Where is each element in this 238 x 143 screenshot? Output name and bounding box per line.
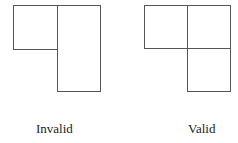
valid-top-left-square <box>144 5 188 49</box>
valid-bottom-right-square <box>187 48 231 92</box>
invalid-left-square <box>13 5 58 50</box>
invalid-tall-rect <box>57 5 101 92</box>
valid-label: Valid <box>188 121 215 137</box>
invalid-label: Invalid <box>36 121 73 137</box>
valid-top-right-square <box>187 5 231 49</box>
